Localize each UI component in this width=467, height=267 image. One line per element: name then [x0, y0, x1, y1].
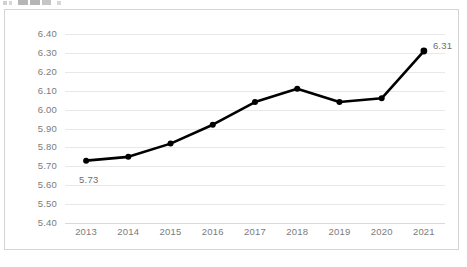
cut-off-toolbar-strip: [0, 0, 467, 6]
data-series-layer: [5, 10, 460, 251]
data-point-marker[interactable]: [252, 99, 258, 105]
data-point-marker[interactable]: [168, 141, 174, 147]
toolbar-glyph-icon: [3, 1, 7, 5]
data-point-marker[interactable]: [379, 95, 385, 101]
data-point-label: 5.73: [79, 174, 98, 185]
toolbar-glyph-icon: [30, 0, 40, 5]
toolbar-glyph-icon: [18, 0, 28, 5]
toolbar-glyph-icon: [42, 0, 51, 5]
data-point-marker[interactable]: [420, 48, 427, 55]
data-point-marker[interactable]: [125, 154, 131, 160]
data-point-marker[interactable]: [83, 158, 89, 164]
toolbar-glyph-icon: [9, 1, 12, 5]
data-point-marker[interactable]: [336, 99, 342, 105]
chart-frame: 6.406.306.206.106.005.905.805.705.605.50…: [4, 9, 459, 250]
data-point-label: 6.31: [433, 40, 452, 51]
toolbar-glyph-icon: [57, 1, 61, 5]
data-point-marker[interactable]: [294, 86, 300, 92]
series-line: [86, 51, 424, 161]
data-point-marker[interactable]: [210, 122, 216, 128]
line-chart-plot-area: 6.406.306.206.106.005.905.805.705.605.50…: [5, 10, 460, 251]
